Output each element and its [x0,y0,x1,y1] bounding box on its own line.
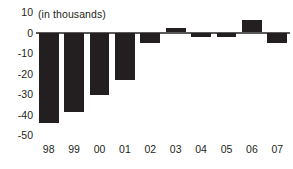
y-axis-tick-label: 10 [0,6,33,18]
y-axis-tick-label: -30 [0,88,33,100]
bar [217,33,237,37]
bar [267,33,287,43]
x-axis: 98990001020304050607 [36,143,290,167]
x-axis-tick-label: 07 [271,143,283,155]
y-axis: 100-10-20-30-40-50 [0,0,33,169]
bar [115,33,135,80]
bar [242,20,262,32]
x-axis-tick-label: 05 [221,143,233,155]
bar [64,33,84,113]
y-axis-tick-label: -50 [0,129,33,141]
x-axis-tick-label: 98 [43,143,55,155]
bar [166,28,186,32]
x-axis-tick-label: 01 [119,143,131,155]
bar [140,33,160,43]
bar [191,33,211,37]
x-axis-tick-label: 03 [170,143,182,155]
x-axis-tick-label: 99 [68,143,80,155]
bar [39,33,59,123]
y-axis-tick-label: -10 [0,47,33,59]
x-axis-tick-label: 04 [195,143,207,155]
x-axis-tick-label: 00 [94,143,106,155]
x-axis-tick-label: 02 [144,143,156,155]
y-axis-tick-label: 0 [0,27,33,39]
plot-area [36,0,290,140]
y-axis-tick-label: -20 [0,68,33,80]
x-axis-tick-label: 06 [246,143,258,155]
bars-container [36,0,290,140]
bar [90,33,110,96]
y-axis-tick-label: -40 [0,109,33,121]
bar-chart: (in thousands) 100-10-20-30-40-50 989900… [0,0,293,169]
